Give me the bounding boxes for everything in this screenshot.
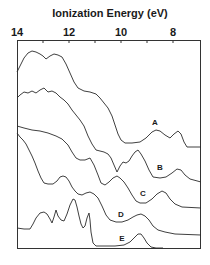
tick-label-12: 12 (63, 26, 75, 38)
chart-title: Ionization Energy (eV) (52, 7, 168, 19)
spectrum-trace-d (17, 133, 201, 235)
tick-label-10: 10 (115, 26, 127, 38)
spectra-traces (17, 51, 201, 248)
spectrum-trace-e (17, 199, 163, 248)
curve-labels: A B C D E (118, 118, 163, 243)
curve-label-c: C (140, 189, 146, 198)
x-axis-tick-labels: 14 12 10 8 (11, 26, 176, 38)
curve-label-a: A (152, 118, 158, 127)
ionization-energy-chart: Ionization Energy (eV) 14 12 10 8 A B C … (0, 0, 210, 265)
curve-label-d: D (118, 210, 124, 219)
tick-label-8: 8 (170, 26, 176, 38)
spectrum-trace-c (17, 126, 201, 208)
plot-frame (18, 41, 201, 249)
curve-label-e: E (119, 234, 125, 243)
tick-label-14: 14 (11, 26, 24, 38)
curve-label-b: B (157, 163, 163, 172)
